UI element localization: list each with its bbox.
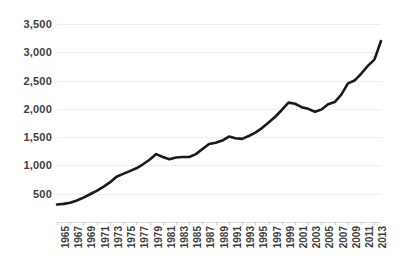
y-axis-tick-labels: 3,5003,0002,5002,0001,5001,000500: [0, 0, 52, 267]
y-axis-tick-label: 2,500: [2, 76, 52, 87]
x-axis-tick-mark: [176, 222, 177, 225]
x-axis-tick-label: 2005: [325, 226, 335, 248]
x-axis-tick-mark: [242, 222, 243, 225]
x-axis-tick-mark: [202, 222, 203, 225]
x-axis-tick-labels: 1965196719691971197319751977197919811983…: [57, 226, 381, 267]
x-axis-tick-label: 2009: [352, 226, 362, 248]
x-axis-tick-mark: [308, 222, 309, 225]
y-axis-tick-label: 2,000: [2, 104, 52, 115]
x-axis-tick-mark: [374, 222, 375, 225]
x-axis-line: [57, 222, 381, 223]
x-axis-tick-label: 1985: [193, 226, 203, 248]
x-axis-tick-mark: [123, 222, 124, 225]
x-axis-tick-label: 1993: [246, 226, 256, 248]
x-axis-tick-mark: [335, 222, 336, 225]
y-axis-tick-label: 1,000: [2, 160, 52, 171]
x-axis-tick-label: 1977: [140, 226, 150, 248]
x-axis-tick-mark: [83, 222, 84, 225]
plot-area: [57, 24, 381, 222]
series-1-polyline: [57, 41, 381, 204]
x-axis-tick-label: 2013: [378, 226, 388, 248]
x-axis-tick-mark: [282, 222, 283, 225]
x-axis-tick-mark: [189, 222, 190, 225]
x-axis-tick-mark: [255, 222, 256, 225]
x-axis-tick-label: 1995: [259, 226, 269, 248]
x-axis-tick-label: 1975: [127, 226, 137, 248]
x-axis-tick-mark: [150, 222, 151, 225]
x-axis-tick-mark: [57, 222, 58, 225]
y-axis-tick-label: 3,000: [2, 47, 52, 58]
x-axis-tick-mark: [163, 222, 164, 225]
x-axis-tick-mark: [70, 222, 71, 225]
x-axis-tick-mark: [136, 222, 137, 225]
x-axis-tick-label: 2007: [339, 226, 349, 248]
x-axis-tick-label: 2003: [312, 226, 322, 248]
x-axis-tick-mark: [348, 222, 349, 225]
x-axis-tick-label: 1997: [273, 226, 283, 248]
x-axis-tick-label: 1971: [101, 226, 111, 248]
x-axis-tick-label: 1999: [286, 226, 296, 248]
x-axis-tick-label: 1965: [61, 226, 71, 248]
series-line: [57, 24, 381, 222]
x-axis-tick-label: 1973: [114, 226, 124, 248]
x-axis-tick-label: 1991: [233, 226, 243, 248]
line-chart: 3,5003,0002,5002,0001,5001,000500 196519…: [0, 0, 409, 267]
x-axis-tick-label: 1979: [154, 226, 164, 248]
x-axis-tick-label: 2011: [365, 226, 375, 248]
x-axis-tick-mark: [295, 222, 296, 225]
x-axis-tick-label: 1983: [180, 226, 190, 248]
x-axis-tick-mark: [110, 222, 111, 225]
y-axis-tick-label: 3,500: [2, 19, 52, 30]
x-axis-tick-mark: [97, 222, 98, 225]
x-axis-tick-label: 1967: [74, 226, 84, 248]
x-axis-tick-mark: [361, 222, 362, 225]
x-axis-tick-label: 1969: [87, 226, 97, 248]
x-axis-tick-mark: [229, 222, 230, 225]
x-axis-tick-label: 1981: [167, 226, 177, 248]
x-axis-tick-label: 2001: [299, 226, 309, 248]
x-axis-tick-mark: [216, 222, 217, 225]
x-axis-tick-label: 1989: [220, 226, 230, 248]
y-axis-tick-label: 500: [2, 189, 52, 200]
x-axis-tick-label: 1987: [206, 226, 216, 248]
x-axis-tick-mark: [321, 222, 322, 225]
x-axis-tick-mark: [269, 222, 270, 225]
y-axis-tick-label: 1,500: [2, 132, 52, 143]
